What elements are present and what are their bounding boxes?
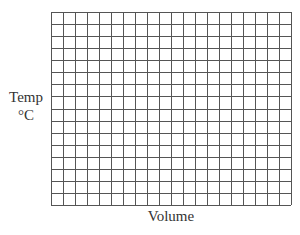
y-axis-label-line2: °C bbox=[4, 106, 48, 124]
y-axis-label: Temp °C bbox=[4, 88, 48, 124]
y-axis-label-line1: Temp bbox=[4, 88, 48, 106]
x-axis-label: Volume bbox=[51, 208, 291, 225]
